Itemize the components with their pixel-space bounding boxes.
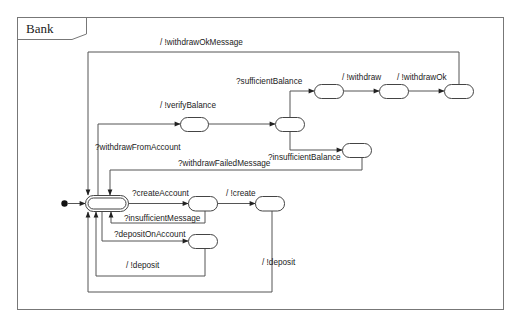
label-create: / !create	[226, 189, 256, 198]
label-depositOnAccount: ?depositOnAccount	[114, 230, 186, 239]
label-sufficientBalance: ?sufficientBalance	[236, 77, 303, 86]
initial-state	[61, 200, 67, 206]
label-withdrawOk: / !withdrawOk	[397, 73, 447, 82]
label-deposit-outer: / !deposit	[262, 258, 296, 267]
label-insufficientMessage: ?insufficientMessage	[124, 214, 201, 223]
edge-sufficientBalance	[290, 91, 314, 117]
label-withdrawOkMessage: / !withdrawOkMessage	[160, 38, 243, 47]
state-depositing[interactable]	[189, 235, 218, 249]
label-verifyBalance: / !verifyBalance	[160, 101, 216, 110]
label-withdrawFailedMessage: ?withdrawFailedMessage	[178, 159, 271, 168]
label-insufficientBalance: ?insufficientBalance	[268, 153, 341, 162]
state-withdrawing[interactable]	[380, 85, 409, 99]
frame-title: Bank	[26, 21, 54, 36]
label-createAccount: ?createAccount	[132, 189, 190, 198]
state-withdrawn[interactable]	[445, 85, 474, 99]
state-creating[interactable]	[189, 197, 218, 212]
state-insufficient[interactable]	[343, 144, 372, 158]
state-checking[interactable]	[276, 118, 305, 132]
state-idle[interactable]	[86, 196, 129, 212]
state-created[interactable]	[256, 197, 285, 212]
edge-insufficientBalance	[290, 131, 342, 150]
label-withdraw: / !withdraw	[342, 73, 381, 82]
label-withdrawFromAccount: ?withdrawFromAccount	[95, 143, 181, 152]
bank-state-diagram: Bank / !withdrawOkMessage ?withdrawFromA…	[0, 0, 523, 328]
state-sufficient[interactable]	[315, 85, 344, 99]
state-verifying[interactable]	[181, 118, 209, 132]
label-deposit-inner: / !deposit	[126, 261, 160, 270]
